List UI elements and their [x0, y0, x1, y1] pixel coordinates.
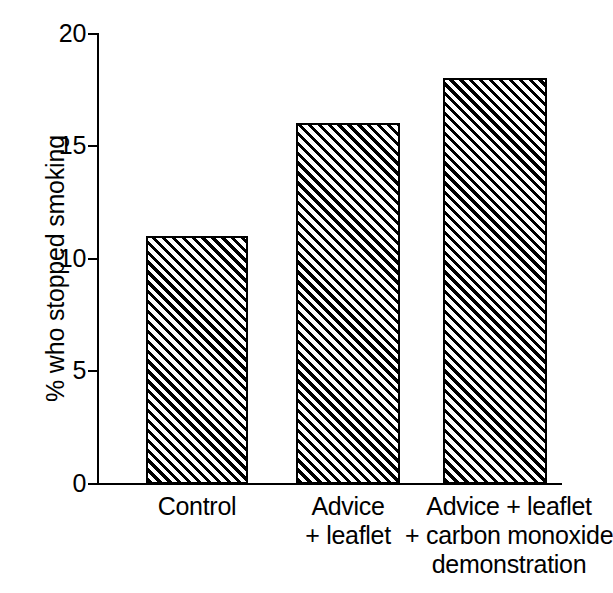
category-label-advice-leaflet: Advice + leaflet: [278, 492, 418, 550]
chart-figure: 20 15 10 5 0 % who stopped smoking Contr…: [0, 0, 613, 593]
category-label-line: Advice: [278, 492, 418, 521]
category-label-line: Control: [117, 492, 277, 521]
y-tick-mark-15: [88, 145, 98, 147]
category-label-control: Control: [117, 492, 277, 521]
clipped-caption-strip: [0, 0, 613, 2]
y-tick-mark-20: [88, 33, 98, 35]
y-tick-label-0: 0: [0, 471, 86, 496]
category-label-line: + leaflet: [278, 521, 418, 550]
category-label-line: Advice + leaflet: [405, 492, 613, 521]
bar-advice-leaflet: [296, 123, 400, 484]
y-tick-mark-5: [88, 370, 98, 372]
category-label-advice-leaflet-co-demo: Advice + leaflet + carbon monoxide demon…: [405, 492, 613, 579]
category-label-line: + carbon monoxide: [405, 521, 613, 550]
bar-control: [146, 236, 248, 485]
y-tick-label-20: 20: [0, 21, 86, 46]
y-tick-mark-10: [88, 258, 98, 260]
category-label-line: demonstration: [405, 550, 613, 579]
y-tick-mark-0: [88, 483, 98, 485]
y-axis-title: % who stopped smoking: [42, 119, 69, 419]
bar-advice-leaflet-co-demo: [443, 78, 547, 484]
